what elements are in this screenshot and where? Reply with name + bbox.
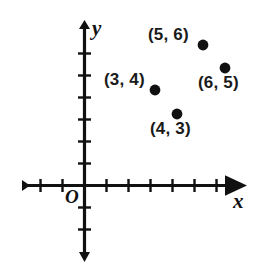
data-point-4-3 <box>172 109 183 120</box>
data-point-label-3-4: (3, 4) <box>104 70 145 90</box>
coordinate-axes-graphic <box>0 0 271 272</box>
data-point-5-6 <box>198 40 209 51</box>
y-axis-label: y <box>92 16 101 41</box>
origin-label: O <box>65 186 79 208</box>
data-point-label-4-3: (4, 3) <box>150 119 191 139</box>
data-point-3-4 <box>150 85 161 96</box>
x-axis-label: x <box>233 189 244 214</box>
coordinate-plane-figure: (5, 6) (6, 5) (3, 4) (4, 3) y x O <box>0 0 271 272</box>
data-point-label-6-5: (6, 5) <box>198 73 239 93</box>
data-point-6-5 <box>220 63 231 74</box>
data-point-label-5-6: (5, 6) <box>148 25 189 45</box>
